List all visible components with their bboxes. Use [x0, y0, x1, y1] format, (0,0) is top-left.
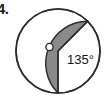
- center-point-marker: [46, 43, 53, 50]
- circle-sector-figure: 4. 135°: [0, 0, 109, 103]
- angle-measure-label: 135°: [67, 52, 94, 67]
- circle-diagram: 135°: [0, 0, 109, 103]
